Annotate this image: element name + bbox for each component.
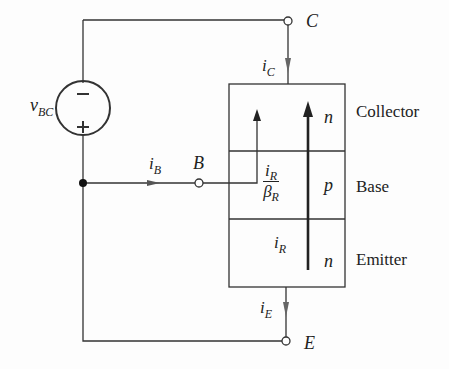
base-doping: p: [324, 176, 333, 194]
ie-arrow-icon: [283, 302, 289, 317]
base-terminal-label: B: [193, 154, 204, 172]
collector-region-label: Collector: [356, 103, 419, 120]
emitter-terminal: [282, 337, 290, 345]
ic-label: iC: [262, 57, 275, 74]
base-region-label: Base: [356, 178, 389, 195]
ir-label: iR: [274, 234, 286, 251]
emitter-region-label: Emitter: [356, 251, 407, 268]
ir-over-beta-fraction: iR βR: [263, 162, 279, 200]
ir-arrow-head-icon: [303, 101, 313, 117]
ib-label: iB: [149, 155, 161, 172]
plus-sign: [77, 121, 89, 133]
source-voltage-label: vBC: [30, 96, 53, 114]
ib-arrow-icon: [147, 180, 160, 186]
collector-doping: n: [324, 108, 333, 126]
base-arrow-head-icon: [253, 109, 261, 121]
ic-arrow-icon: [285, 58, 291, 73]
collector-terminal: [284, 17, 292, 25]
collector-terminal-label: C: [306, 12, 318, 30]
emitter-terminal-label: E: [304, 334, 315, 352]
emitter-doping: n: [324, 252, 333, 270]
transistor-reverse-mode-diagram: vBC C B E iC iB iE iR iR βR n p n Collec…: [0, 0, 449, 369]
wire-bottom: [83, 183, 282, 341]
base-terminal: [195, 179, 203, 187]
ie-label: iE: [260, 299, 272, 316]
junction-dot: [79, 179, 87, 187]
